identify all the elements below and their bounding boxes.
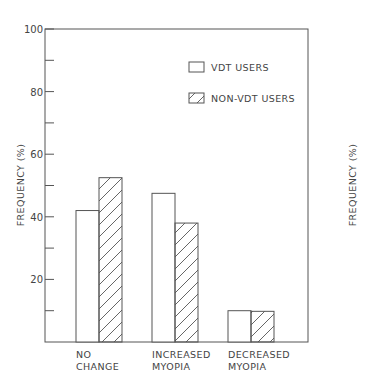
bar-non-vdt [99,178,122,342]
y-tick-label: 80 [30,87,43,98]
bars [76,178,274,342]
legend-label: NON-VDT USERS [211,93,295,104]
x-tick-label: NO [76,349,91,360]
x-tick-label: MYOPIA [152,361,190,372]
bar-non-vdt [175,223,198,342]
y-axis-ticks: 20406080100 [24,24,54,311]
x-tick-label: CHANGE [76,361,119,372]
legend-swatch [189,62,204,72]
y-axis-label: FREQUENCY (%) [15,144,26,227]
x-tick-label: INCREASED [152,349,211,360]
bar-chart: 20406080100 NOCHANGEINCREASEDMYOPIADECRE… [0,0,372,389]
bar-vdt [76,211,99,342]
x-tick-label: MYOPIA [228,361,266,372]
x-axis-labels: NOCHANGEINCREASEDMYOPIADECREASEDMYOPIA [76,349,290,372]
x-tick-label: DECREASED [228,349,290,360]
bar-non-vdt [251,311,274,342]
y-tick-label: 40 [30,212,43,223]
bar-vdt [228,311,251,342]
right-axis-label: FREQUENCY (%) [347,144,358,227]
legend-swatch [189,93,204,103]
y-tick-label: 20 [30,274,43,285]
y-tick-label: 100 [24,24,43,35]
bar-vdt [152,193,175,342]
legend: VDT USERSNON-VDT USERS [189,62,295,104]
y-tick-label: 60 [30,149,43,160]
legend-label: VDT USERS [211,62,269,73]
